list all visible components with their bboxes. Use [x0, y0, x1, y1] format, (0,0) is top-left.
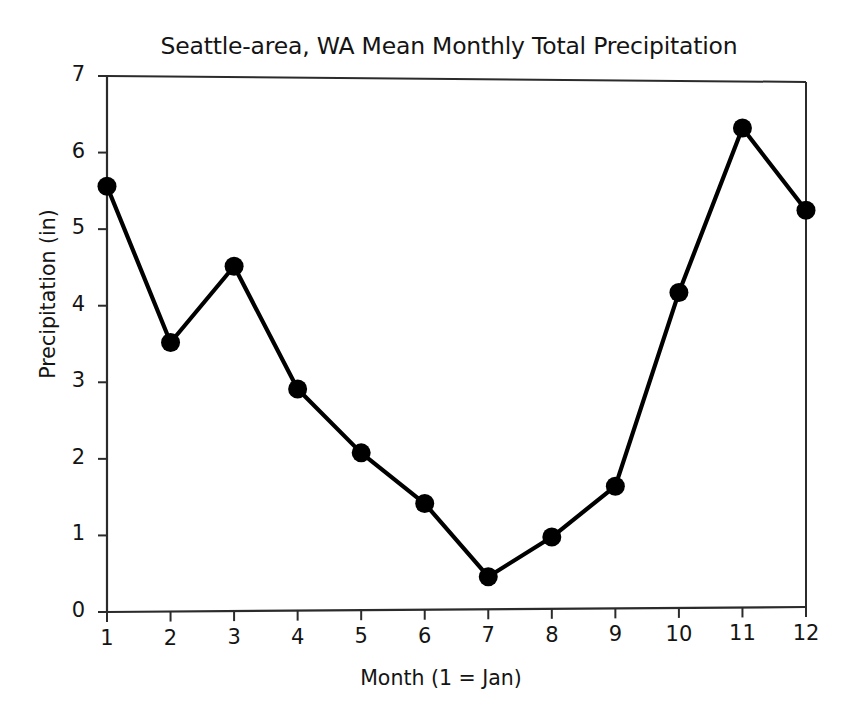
- x-tick-label: 9: [595, 622, 635, 646]
- data-point-marker: [415, 494, 434, 513]
- data-markers: [98, 119, 816, 587]
- x-tick-label: 11: [722, 621, 762, 645]
- data-point-marker: [225, 257, 244, 276]
- y-tick-label: 2: [45, 445, 85, 469]
- x-tick-label: 10: [659, 622, 699, 646]
- y-tick-label: 6: [45, 139, 85, 163]
- y-tick-label: 5: [45, 215, 85, 239]
- y-tick-label: 4: [45, 292, 85, 316]
- y-tick-label: 0: [45, 598, 85, 622]
- plot-area: [0, 0, 854, 714]
- x-tick-label: 1: [87, 626, 127, 650]
- data-point-marker: [606, 477, 625, 496]
- y-tick-label: 7: [45, 62, 85, 86]
- data-point-marker: [98, 177, 117, 196]
- y-tick-marks: [98, 76, 107, 612]
- x-axis-spine: [107, 607, 806, 612]
- x-tick-label: 12: [786, 621, 826, 645]
- data-point-marker: [288, 380, 307, 399]
- x-tick-label: 2: [151, 626, 191, 650]
- data-point-marker: [797, 201, 816, 220]
- data-point-marker: [161, 333, 180, 352]
- data-line: [107, 128, 806, 577]
- x-tick-label: 7: [468, 623, 508, 647]
- y-tick-label: 1: [45, 521, 85, 545]
- x-tick-label: 4: [278, 625, 318, 649]
- data-point-marker: [479, 567, 498, 586]
- chart-figure: Seattle-area, WA Mean Monthly Total Prec…: [0, 0, 854, 714]
- data-point-marker: [733, 119, 752, 138]
- x-tick-label: 3: [214, 625, 254, 649]
- y-tick-label: 3: [45, 368, 85, 392]
- axes-frame: [107, 76, 806, 612]
- series-polyline: [107, 128, 806, 577]
- data-point-marker: [669, 283, 688, 302]
- data-point-marker: [542, 528, 561, 547]
- x-tick-label: 5: [341, 624, 381, 648]
- top-spine: [107, 76, 806, 82]
- x-tick-label: 6: [405, 624, 445, 648]
- data-point-marker: [352, 443, 371, 462]
- x-tick-label: 8: [532, 623, 572, 647]
